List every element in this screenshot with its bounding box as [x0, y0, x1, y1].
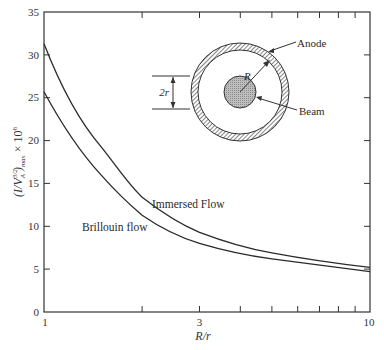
dimension-arrowhead-up-icon [171, 77, 176, 83]
x-tick-labels: 1 3 10 [42, 316, 375, 328]
y-tick-10: 10 [28, 220, 40, 232]
beam-arrowhead-icon [256, 96, 262, 101]
y-axis-ticks [44, 55, 50, 269]
x-axis-ticks [142, 306, 355, 312]
y-axis-ticks-right [364, 55, 370, 269]
x-tick-10: 10 [364, 316, 376, 328]
brillouin-flow-label: Brillouin flow [82, 221, 148, 233]
y-tick-0: 0 [34, 306, 40, 318]
y-tick-20: 20 [28, 134, 40, 146]
x-tick-3: 3 [197, 316, 203, 328]
y-axis-title-exp: 6 [11, 127, 19, 131]
y-axis-title-sub-max: max [19, 154, 27, 167]
x-axis-title: R/r [194, 329, 211, 343]
y-axis-title-tail: × 10 [11, 131, 25, 156]
inset-diagram: R Anode Beam 2r [152, 37, 326, 141]
radius-label: R [243, 70, 251, 82]
x-axis-ticks-top [142, 12, 355, 18]
immersed-flow-label: Immersed Flow [152, 198, 225, 210]
y-axis-title-sub-a: A [19, 173, 27, 179]
y-tick-labels: 0 5 10 15 20 25 30 35 [28, 6, 40, 318]
immersed-flow-curve [44, 44, 370, 268]
y-tick-35: 35 [28, 6, 40, 18]
y-tick-25: 25 [28, 91, 40, 103]
diameter-label: 2r [159, 86, 170, 98]
beam-pointer [258, 98, 297, 110]
beam-label: Beam [299, 105, 325, 117]
y-axis-title-main: (I/V [11, 177, 25, 197]
y-axis-title: (I/V3/2A)max × 106 [11, 127, 27, 197]
y-tick-30: 30 [28, 49, 40, 61]
y-tick-15: 15 [28, 177, 40, 189]
dimension-arrowhead-down-icon [171, 102, 176, 108]
x-tick-1: 1 [42, 316, 48, 328]
y-tick-5: 5 [34, 263, 40, 275]
chart-canvas: 0 5 10 15 20 25 30 35 1 3 10 R/r (I/V3/2… [0, 0, 384, 350]
svg-text:(I/V3/2A)max × 106: (I/V3/2A)max × 106 [11, 127, 27, 197]
anode-label: Anode [297, 37, 326, 49]
